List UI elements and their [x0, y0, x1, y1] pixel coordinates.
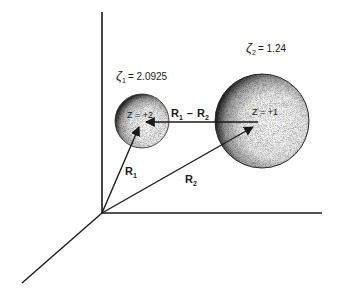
vector-r1: [102, 127, 139, 213]
charge-1-label: Z = +2: [127, 110, 153, 120]
diagram-canvas: ζ1= 2.0925 ζ2= 1.24 Z = +2 Z = +1 R1–R2 …: [0, 0, 339, 299]
depth-axis: [22, 213, 102, 283]
zeta-2-label: ζ2= 1.24: [246, 40, 286, 56]
r1-minus-r2-label: R1–R2: [171, 107, 209, 121]
r1-label: R1: [125, 165, 137, 179]
sphere-2: [215, 74, 309, 168]
zeta-1-label: ζ1= 2.0925: [116, 68, 168, 84]
charge-2-label: Z = +1: [252, 107, 278, 117]
r2-label: R2: [185, 173, 197, 187]
sphere-1: [115, 94, 169, 148]
